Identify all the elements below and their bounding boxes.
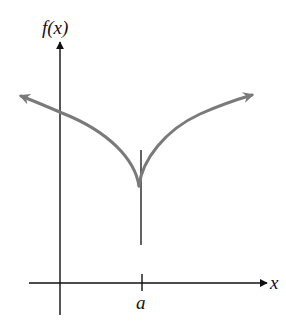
curve-left-branch xyxy=(21,96,139,186)
y-axis-label: f(x) xyxy=(42,17,68,39)
curve-right-branch xyxy=(139,95,252,186)
function-graph: f(x) x a xyxy=(0,0,286,331)
x-axis-label: x xyxy=(269,272,279,293)
tick-label-a: a xyxy=(136,292,146,313)
